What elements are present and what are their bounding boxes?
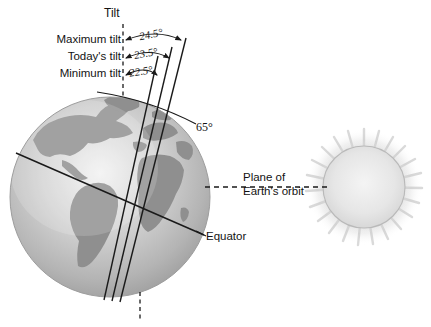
sun-disc [323,146,405,228]
label-equator: Equator [206,230,246,244]
earth-group [10,94,210,297]
diagram-canvas: Tilt Maximum tilt Today's tilt Minimum t… [0,0,431,327]
label-latitude-65: 65° [196,120,213,134]
label-minimum-tilt: Minimum tilt [60,67,121,81]
label-todays-tilt: Today's tilt [68,50,121,64]
label-maximum-tilt: Maximum tilt [56,33,121,47]
label-plane-line1: Plane of [243,170,304,184]
label-plane-line2: Earth's orbit [243,184,304,198]
label-plane-of-orbit: Plane of Earth's orbit [243,170,304,199]
diagram-svg [0,0,431,327]
label-tilt: Tilt [104,6,120,20]
